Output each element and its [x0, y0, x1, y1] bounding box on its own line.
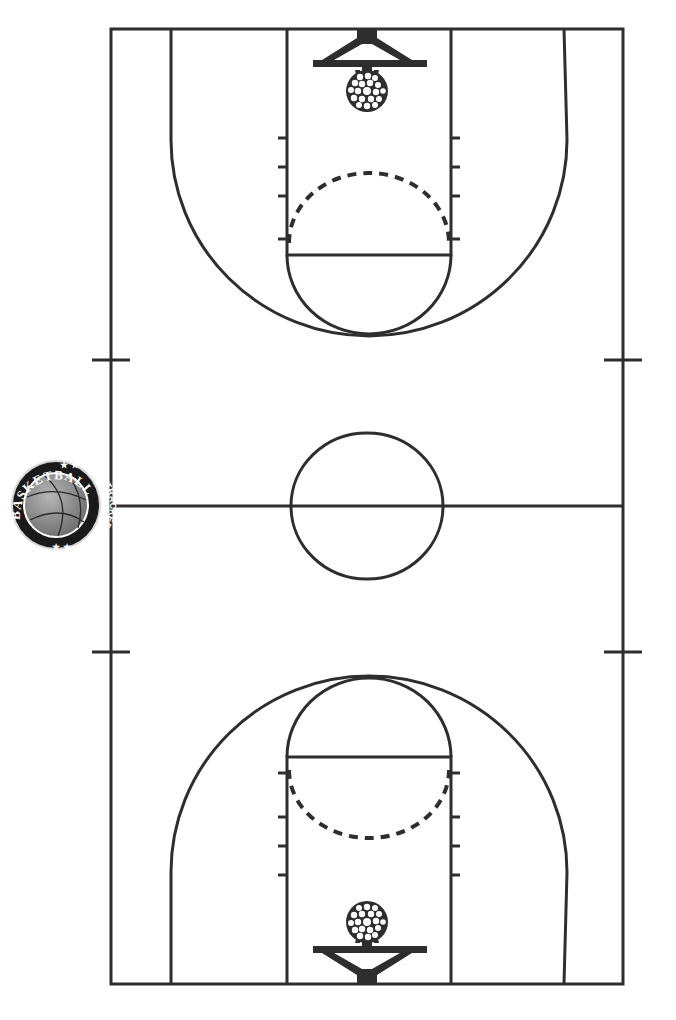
top-backboard: [313, 29, 427, 72]
bottom-hoop-icon: [346, 901, 388, 943]
star-icon: ★ ★: [60, 460, 80, 470]
top-half: [171, 29, 567, 336]
bottom-lane-ticks: [278, 773, 460, 875]
basketball-court-diagram: BASKETBALL STAT TRACKER ★ ★ ★ ★: [0, 0, 676, 1020]
bottom-half: [171, 676, 567, 984]
basketball-stat-tracker-logo: BASKETBALL STAT TRACKER ★ ★ ★ ★: [8, 460, 118, 552]
top-hoop-icon: [346, 70, 388, 112]
star-icon: ★ ★: [52, 542, 72, 552]
top-free-throw-circle-solid: [287, 255, 451, 334]
top-free-throw-circle-dashed: [289, 173, 449, 243]
bottom-free-throw-circle-dashed: [289, 770, 449, 838]
bottom-backboard: [313, 941, 427, 984]
top-lane-ticks: [278, 138, 460, 239]
bottom-free-throw-circle-solid: [287, 678, 451, 757]
